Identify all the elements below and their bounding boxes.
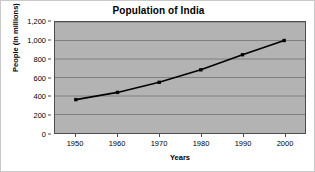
x-axis-tick-labels: 195019601970198019902000	[54, 137, 306, 149]
data-point-marker	[116, 91, 119, 94]
x-tick-label: 1980	[193, 139, 210, 148]
x-tick-mark	[75, 134, 76, 137]
y-axis-tick-labels: 02004006008001,0001,200	[1, 21, 51, 134]
x-tick-label: 1970	[151, 139, 168, 148]
x-tick-label: 1950	[67, 139, 84, 148]
chart-title: Population of India	[1, 5, 315, 16]
plot-area	[54, 21, 306, 134]
data-series-line	[55, 22, 305, 133]
x-tick-label: 1960	[109, 139, 126, 148]
chart-figure: Population of India People (in millions)…	[0, 0, 315, 172]
x-tick-mark	[159, 134, 160, 137]
data-point-marker	[199, 68, 202, 71]
y-tick-label: 1,000	[27, 35, 46, 44]
y-tick-mark	[48, 134, 51, 135]
y-tick-label: 0	[42, 130, 46, 139]
y-tick-label: 800	[33, 54, 46, 63]
x-tick-label: 1990	[235, 139, 252, 148]
y-tick-mark	[48, 115, 51, 116]
y-tick-label: 1,200	[27, 17, 46, 26]
data-point-marker	[74, 98, 77, 101]
x-tick-mark	[243, 134, 244, 137]
y-tick-mark	[48, 77, 51, 78]
y-tick-mark	[48, 96, 51, 97]
y-tick-mark	[48, 39, 51, 40]
x-tick-mark	[285, 134, 286, 137]
data-point-marker	[282, 39, 285, 42]
y-tick-label: 600	[33, 73, 46, 82]
y-tick-mark	[48, 21, 51, 22]
series-line	[76, 40, 284, 99]
data-point-marker	[241, 53, 244, 56]
x-tick-mark	[201, 134, 202, 137]
y-tick-mark	[48, 58, 51, 59]
x-axis-title: Years	[54, 153, 306, 162]
x-tick-mark	[117, 134, 118, 137]
y-tick-label: 200	[33, 111, 46, 120]
y-tick-label: 400	[33, 92, 46, 101]
data-point-marker	[157, 81, 160, 84]
x-tick-label: 2000	[277, 139, 294, 148]
